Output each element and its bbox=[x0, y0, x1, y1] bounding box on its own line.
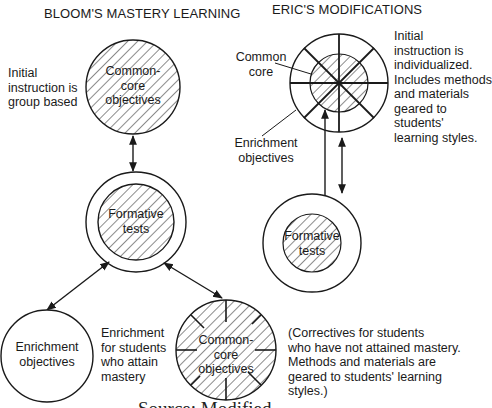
bloom-formative-label: Formative tests bbox=[100, 207, 172, 236]
bloom-corrective-label: Common- core objectives bbox=[190, 333, 262, 377]
bloom-initial-note: Initial instruction is group based bbox=[8, 66, 78, 110]
eric-enrichment-label: Enrichment objectives bbox=[226, 136, 306, 165]
bloom-common-core-label: Common- core objectives bbox=[99, 64, 167, 108]
bloom-enrichment-note: Enrichment for students who attain maste… bbox=[101, 326, 166, 384]
bloom-enrichment-label: Enrichment objectives bbox=[8, 340, 86, 369]
bloom-corrective-note: (Correctives for students who have not a… bbox=[288, 326, 461, 399]
eric-initial-note: Initial instruction is individualized. I… bbox=[394, 29, 492, 145]
eric-formative-label: Formative tests bbox=[277, 229, 347, 258]
arrow-formative-to-correctives bbox=[164, 263, 222, 298]
eric-common-core-label: Common core bbox=[232, 50, 290, 79]
eric-title: ERIC'S MODIFICATIONS bbox=[272, 2, 422, 17]
eric-individualized-circle bbox=[290, 34, 388, 132]
bloom-title: BLOOM'S MASTERY LEARNING bbox=[44, 6, 241, 21]
leader-enrichment bbox=[262, 110, 296, 136]
arrow-formative-to-enrichment bbox=[47, 262, 109, 310]
source-caption: Source: Modified bbox=[138, 398, 272, 408]
